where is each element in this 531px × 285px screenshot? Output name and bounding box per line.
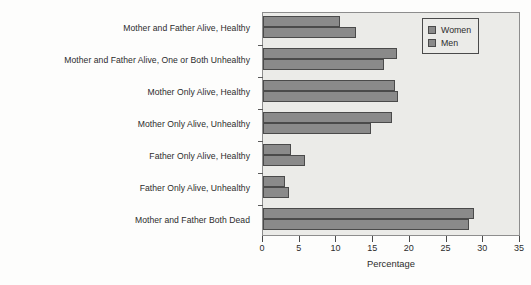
bar-men[interactable] [263, 59, 384, 70]
x-axis-tick-labels: 05101520253035 [262, 243, 520, 257]
bar-women[interactable] [263, 80, 395, 91]
x-tick [262, 236, 263, 242]
category-tick [258, 77, 263, 78]
category-label: Mother and Father Alive, One or Both Unh… [64, 55, 250, 65]
bar-men[interactable] [263, 219, 469, 230]
category-label: Father Only Alive, Unhealthy [140, 183, 250, 193]
bar-men[interactable] [263, 27, 356, 38]
category-label: Father Only Alive, Healthy [149, 151, 250, 161]
legend-swatch-women-icon [428, 26, 436, 34]
bar-men[interactable] [263, 187, 289, 198]
bar-women[interactable] [263, 112, 392, 123]
x-tick [446, 236, 447, 242]
x-tick [372, 236, 373, 242]
category-label: Mother and Father Both Dead [135, 215, 250, 225]
category-tick [258, 173, 263, 174]
bar-men[interactable] [263, 155, 305, 166]
x-tick-label: 25 [441, 243, 451, 253]
x-axis-title: Percentage [262, 258, 520, 269]
x-tick [409, 236, 410, 242]
x-tick-label: 0 [259, 243, 264, 253]
category-label-column: Mother and Father Alive, HealthyMother a… [0, 12, 256, 236]
legend-label-men: Men [441, 38, 458, 48]
chart-figure: Mother and Father Alive, HealthyMother a… [0, 0, 531, 285]
legend-swatch-men-icon [428, 39, 436, 47]
category-label: Mother Only Alive, Unhealthy [138, 119, 250, 129]
x-tick [482, 236, 483, 242]
category-tick [258, 141, 263, 142]
bar-women[interactable] [263, 48, 397, 59]
category-label: Mother Only Alive, Healthy [147, 87, 250, 97]
bar-women[interactable] [263, 144, 291, 155]
x-tick-label: 20 [404, 243, 414, 253]
legend-item-men[interactable]: Men [428, 36, 471, 49]
x-tick [335, 236, 336, 242]
category-tick [258, 205, 263, 206]
bar-women[interactable] [263, 16, 340, 27]
category-tick [258, 45, 263, 46]
bar-men[interactable] [263, 91, 398, 102]
legend-label-women: Women [441, 25, 471, 35]
x-tick-label: 15 [367, 243, 377, 253]
x-tick-label: 30 [477, 243, 487, 253]
plot-area [262, 12, 520, 236]
x-tick [519, 236, 520, 242]
bar-women[interactable] [263, 176, 285, 187]
category-tick [258, 109, 263, 110]
x-tick-label: 5 [296, 243, 301, 253]
legend-item-women[interactable]: Women [428, 23, 471, 36]
x-tick-label: 10 [330, 243, 340, 253]
category-label: Mother and Father Alive, Healthy [123, 23, 250, 33]
bar-men[interactable] [263, 123, 371, 134]
chart-legend: Women Men [422, 18, 479, 54]
x-tick-label: 35 [514, 243, 524, 253]
x-tick [299, 236, 300, 242]
bar-women[interactable] [263, 208, 474, 219]
